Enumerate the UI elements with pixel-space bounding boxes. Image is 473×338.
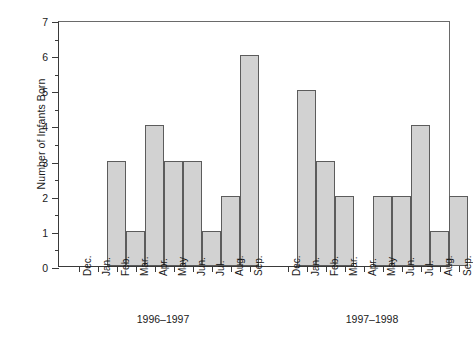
y-axis-tick-major <box>52 233 59 234</box>
bar <box>392 196 411 266</box>
x-axis-tick <box>250 266 251 272</box>
y-axis-tick-minor <box>55 250 59 251</box>
x-axis-tick-label-anchor: Jul. <box>215 276 216 277</box>
y-axis-title-container: Number of Infants Born <box>2 0 28 268</box>
x-axis-tick <box>459 266 460 272</box>
x-axis-tick-label: May <box>177 257 188 276</box>
x-axis-tick <box>136 266 137 272</box>
bar <box>373 196 392 266</box>
x-axis-tick-label: Mar. <box>139 257 150 276</box>
y-axis-tick-major <box>52 163 59 164</box>
x-axis-tick-label: Feb. <box>329 256 340 276</box>
y-axis-tick-minor <box>55 215 59 216</box>
x-axis-tick <box>402 266 403 272</box>
bar <box>145 125 164 266</box>
y-axis-tick-major <box>52 127 59 128</box>
x-axis-tick <box>212 266 213 272</box>
x-axis-tick-label: Dec. <box>291 255 302 276</box>
y-axis-tick-minor <box>55 145 59 146</box>
y-axis-tick-major <box>52 57 59 58</box>
x-axis-tick-label-anchor: Mar. <box>348 276 349 277</box>
bar <box>297 90 316 266</box>
x-axis-tick-label-anchor: Mar. <box>139 276 140 277</box>
y-axis-tick-label: 4 <box>28 121 48 133</box>
y-axis-tick-label: 6 <box>28 51 48 63</box>
bar <box>240 55 259 266</box>
x-axis-tick <box>155 266 156 272</box>
x-axis-tick-label-anchor: Jun. <box>405 276 406 277</box>
y-axis-tick-minor <box>55 180 59 181</box>
x-axis-tick <box>440 266 441 272</box>
x-axis-tick-label-anchor: Apr. <box>158 276 159 277</box>
x-axis-tick-label: Sep. <box>462 255 473 276</box>
x-axis-tick-label-anchor: Jan. <box>310 276 311 277</box>
x-axis-tick-label: Aug. <box>234 255 245 276</box>
x-axis-tick <box>383 266 384 272</box>
x-axis-tick-label-anchor: Feb. <box>329 276 330 277</box>
x-axis-group-label: 1997–1998 <box>346 313 399 325</box>
x-axis-tick-label: Apr. <box>158 258 169 276</box>
x-axis-tick-label-anchor: Dec. <box>82 276 83 277</box>
x-axis-tick-label-anchor: Aug. <box>234 276 235 277</box>
x-axis-tick-label-anchor: Feb. <box>120 276 121 277</box>
x-axis-tick-label: Feb. <box>120 256 131 276</box>
x-axis-tick-label-anchor: Sep. <box>462 276 463 277</box>
x-axis-tick-label: May <box>386 257 397 276</box>
y-axis-tick-major <box>52 268 59 269</box>
bar <box>107 161 126 266</box>
x-axis-tick-label-anchor: Aug. <box>443 276 444 277</box>
y-axis-tick-label: 5 <box>28 86 48 98</box>
x-axis-tick-label-anchor: Apr. <box>367 276 368 277</box>
x-axis-tick <box>307 266 308 272</box>
x-axis-tick-label: Mar. <box>348 257 359 276</box>
x-axis-tick <box>421 266 422 272</box>
bar <box>411 125 430 266</box>
x-axis-tick-label: Jan. <box>310 257 321 276</box>
x-axis-tick-label: Jul. <box>424 260 435 276</box>
x-axis-tick-label: Sep. <box>253 255 264 276</box>
x-axis-tick-label-anchor: May <box>177 276 178 277</box>
plot-area: 01234567 <box>58 21 450 267</box>
y-axis-tick-minor <box>55 75 59 76</box>
y-axis-tick-minor <box>55 110 59 111</box>
x-axis-group-label: 1996–1997 <box>137 313 190 325</box>
x-axis-tick <box>117 266 118 272</box>
x-axis-tick-label: Jan. <box>101 257 112 276</box>
y-axis-tick-minor <box>55 40 59 41</box>
bar <box>183 161 202 266</box>
x-axis-tick <box>174 266 175 272</box>
x-axis-tick-label: Jul. <box>215 260 226 276</box>
y-axis-tick-label: 7 <box>28 16 48 28</box>
x-axis-tick-label-anchor: May <box>386 276 387 277</box>
x-axis-tick-label-anchor: Jun. <box>196 276 197 277</box>
bar <box>164 161 183 266</box>
y-axis-tick-label: 0 <box>28 262 48 274</box>
y-axis-tick-major <box>52 198 59 199</box>
x-axis-tick-label: Dec. <box>82 255 93 276</box>
x-axis-tick <box>231 266 232 272</box>
y-axis-tick-major <box>52 92 59 93</box>
x-axis-tick-label-anchor: Jul. <box>424 276 425 277</box>
x-axis-tick-label: Aug. <box>443 255 454 276</box>
x-axis-tick <box>288 266 289 272</box>
x-axis-tick <box>364 266 365 272</box>
y-axis-tick-label: 1 <box>28 227 48 239</box>
x-axis-tick-label: Apr. <box>367 258 378 276</box>
x-axis-tick <box>79 266 80 272</box>
x-axis-tick-label-anchor: Dec. <box>291 276 292 277</box>
x-axis-tick <box>345 266 346 272</box>
y-axis-tick-major <box>52 22 59 23</box>
x-axis-tick-label-anchor: Jan. <box>101 276 102 277</box>
y-axis-tick-label: 3 <box>28 157 48 169</box>
x-axis-tick <box>326 266 327 272</box>
x-axis-tick <box>193 266 194 272</box>
x-axis-tick-label-anchor: Sep. <box>253 276 254 277</box>
x-axis-tick-label: Jun. <box>196 257 207 276</box>
x-axis-tick-label: Jun. <box>405 257 416 276</box>
y-axis-tick-label: 2 <box>28 192 48 204</box>
x-axis-tick <box>98 266 99 272</box>
bar <box>316 161 335 266</box>
